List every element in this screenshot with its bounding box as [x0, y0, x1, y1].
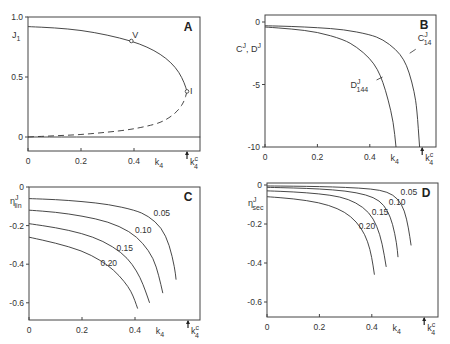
- y-axis-label: ηJsec: [248, 196, 264, 211]
- curve-label: DJ144: [351, 78, 369, 93]
- series-line: [267, 197, 374, 275]
- y-tick-label: 1.0: [11, 12, 23, 22]
- figure: 00.20.400.51.0k4kc4J1AVI 00.20.40-5-10k4…: [0, 0, 450, 344]
- series-line: [29, 224, 150, 303]
- critical-k4-label: kc4: [425, 151, 434, 166]
- panel-c: 00.20.40-0.2-0.4-0.6k4kc4ηJlinC0.050.100…: [9, 182, 200, 339]
- y-axis-label: ηJlin: [10, 194, 22, 209]
- x-tick-label: 0.4: [128, 156, 140, 166]
- panel-b: 00.20.40-5-10k4kc4CJ, DJBCJ14DJ144: [236, 15, 436, 166]
- critical-k4-label: kc4: [427, 321, 436, 336]
- arrow-up-icon: [185, 151, 189, 155]
- curve-label: 0.20: [359, 221, 376, 231]
- arrow-up-icon: [186, 320, 190, 324]
- curve-label: 0.05: [154, 208, 171, 218]
- x-axis-label: k4: [156, 326, 165, 338]
- series-line: [29, 210, 163, 293]
- plot-frame: [267, 183, 438, 317]
- x-axis-label: k4: [155, 157, 164, 169]
- series-line: [28, 91, 187, 137]
- y-tick-label: -0.6: [247, 297, 262, 307]
- y-tick-label: -0.4: [247, 258, 262, 268]
- x-tick-label: 0.2: [311, 152, 323, 162]
- x-tick-label: 0.2: [76, 325, 88, 335]
- x-tick-label: 0.2: [75, 156, 87, 166]
- y-tick-label: 0: [255, 17, 260, 27]
- x-tick-label: 0: [26, 156, 31, 166]
- curve-label: 0.15: [372, 207, 389, 217]
- point-label-i: I: [190, 86, 193, 96]
- series-line: [265, 26, 420, 147]
- critical-k4-label: kc4: [190, 155, 199, 170]
- y-tick-label: -0.6: [9, 298, 24, 308]
- y-tick-label: -0.2: [247, 219, 262, 229]
- point-label-v: V: [132, 30, 138, 40]
- panel-d: 00.20.40-0.2-0.4-0.6k4kc4ηJsecD0.050.100…: [247, 180, 438, 336]
- series-line: [28, 27, 187, 92]
- panel-letter: C: [184, 190, 193, 204]
- y-tick-label: 0: [18, 132, 23, 142]
- curve-label: 0.10: [389, 197, 406, 207]
- y-tick-label: 0.5: [11, 72, 23, 82]
- y-tick-label: -0.4: [9, 259, 24, 269]
- x-tick-label: 0: [265, 322, 270, 332]
- curve-label: 0.20: [101, 258, 118, 268]
- panel-letter: A: [184, 20, 193, 34]
- x-tick-label: 0.4: [366, 322, 378, 332]
- panel-a: 00.20.400.51.0k4kc4J1AVI: [11, 12, 200, 170]
- marker-point: [185, 90, 189, 94]
- x-tick-label: 0.4: [129, 325, 141, 335]
- curve-label: CJ14: [418, 31, 432, 46]
- x-axis-label: k4: [390, 153, 399, 165]
- panel-letter: D: [422, 186, 431, 200]
- y-tick-label: 0: [19, 182, 24, 192]
- y-axis-label: J1: [12, 30, 21, 42]
- critical-k4-label: kc4: [191, 324, 200, 339]
- y-tick-label: -5: [252, 80, 260, 90]
- curve-label: 0.10: [135, 225, 152, 235]
- y-tick-label: -0.2: [9, 221, 24, 231]
- y-tick-label: -10: [248, 142, 261, 152]
- x-tick-label: 0.2: [313, 322, 325, 332]
- x-tick-label: 0.4: [364, 152, 376, 162]
- series-line: [265, 27, 396, 147]
- arrow-up-icon: [422, 317, 426, 321]
- arrow-up-icon: [420, 147, 424, 151]
- panel-letter: B: [420, 18, 429, 32]
- x-tick-label: 0: [27, 325, 32, 335]
- curve-label: 0.15: [116, 243, 133, 253]
- x-tick-label: 0: [263, 152, 268, 162]
- y-tick-label: 0: [257, 180, 262, 190]
- leader-line: [410, 49, 416, 53]
- curve-label: 0.05: [401, 187, 418, 197]
- y-axis-label: CJ, DJ: [236, 42, 261, 54]
- plot-frame: [29, 187, 200, 320]
- x-axis-label: k4: [392, 323, 401, 335]
